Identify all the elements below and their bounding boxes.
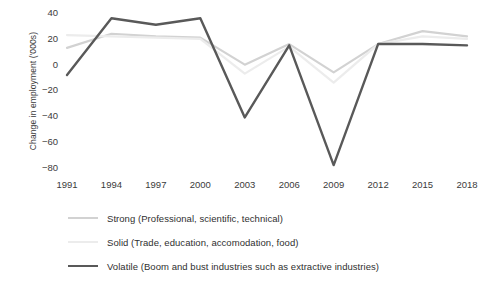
plot-area	[63, 8, 471, 178]
legend-label: Volatile (Boom and bust industries such …	[107, 261, 379, 272]
y-axis-tick-labels: 40200−20−40−60−80	[18, 0, 58, 200]
legend-label: Solid (Trade, education, accomodation, f…	[107, 237, 298, 248]
x-axis-tick: 1994	[88, 180, 134, 190]
y-axis-tick: −80	[24, 163, 58, 173]
chart-legend: Strong (Professional, scientific, techni…	[68, 206, 478, 278]
x-axis-tick: 2015	[400, 180, 446, 190]
x-axis-tick-labels: 1991199419972000200320062009201220152018	[0, 180, 486, 196]
series-line	[67, 18, 467, 165]
y-axis-tick: 0	[24, 60, 58, 70]
y-axis-tick: 40	[24, 8, 58, 18]
legend-swatch	[68, 217, 98, 219]
y-axis-tick: −60	[24, 137, 58, 147]
x-axis-tick: 2018	[444, 180, 486, 190]
chart-figure: Change in employment ('000s) 40200−20−40…	[0, 0, 486, 283]
legend-label: Strong (Professional, scientific, techni…	[107, 213, 283, 224]
legend-swatch	[68, 241, 98, 243]
series-line	[67, 35, 467, 83]
x-axis-tick: 2012	[355, 180, 401, 190]
legend-swatch	[68, 265, 98, 267]
x-axis-tick: 2009	[311, 180, 357, 190]
y-axis-tick: −40	[24, 111, 58, 121]
line-chart-svg	[63, 8, 471, 178]
x-axis-tick: 2006	[266, 180, 312, 190]
y-axis-tick: −20	[24, 85, 58, 95]
y-axis-tick: 20	[24, 34, 58, 44]
legend-item[interactable]: Solid (Trade, education, accomodation, f…	[68, 230, 478, 254]
x-axis-tick: 2000	[177, 180, 223, 190]
x-axis-tick: 1991	[44, 180, 90, 190]
legend-item[interactable]: Strong (Professional, scientific, techni…	[68, 206, 478, 230]
legend-item[interactable]: Volatile (Boom and bust industries such …	[68, 254, 478, 278]
x-axis-tick: 2003	[222, 180, 268, 190]
x-axis-tick: 1997	[133, 180, 179, 190]
